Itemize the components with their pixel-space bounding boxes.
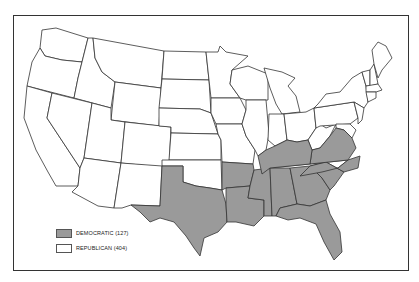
state-connecticut <box>366 92 376 102</box>
map-legend: DEMOCRATIC (127) REPUBLICAN (404) <box>56 226 129 256</box>
state-new-mexico <box>114 163 162 208</box>
state-new-york <box>314 72 368 108</box>
legend-item-democratic: DEMOCRATIC (127) <box>56 226 129 240</box>
republican-swatch <box>56 244 72 253</box>
legend-item-republican: REPUBLICAN (404) <box>56 241 129 255</box>
state-iowa <box>211 98 246 124</box>
democratic-swatch <box>56 229 72 238</box>
state-michigan <box>264 68 300 114</box>
state-wyoming <box>111 82 161 126</box>
legend-label-democratic: DEMOCRATIC (127) <box>76 230 129 236</box>
state-florida <box>276 200 342 260</box>
legend-label-republican: REPUBLICAN (404) <box>76 245 127 251</box>
state-kansas <box>169 133 221 160</box>
state-massachusetts <box>366 84 382 92</box>
state-north-dakota <box>162 51 209 80</box>
